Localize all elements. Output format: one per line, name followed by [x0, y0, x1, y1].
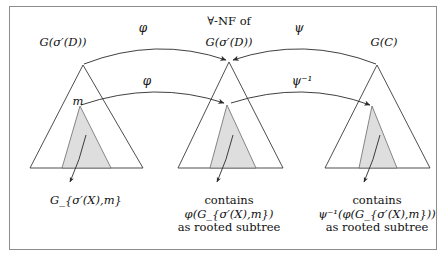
arrow-phi-lower [81, 92, 224, 105]
left-subtree [62, 106, 111, 168]
label-center-tree: G(σ′(D)) [206, 36, 253, 50]
label-right-tree-text: G(C) [371, 35, 398, 49]
caption-right-line3: as rooted subtree [318, 221, 435, 235]
label-subtree-root-m: m [73, 95, 84, 109]
caption-center: contains φ(G_{σ′(X),m}) as rooted subtre… [178, 194, 281, 235]
label-center-tree-text: G(σ′(D)) [206, 35, 253, 49]
right-subtree-shaded [359, 106, 397, 168]
caption-right: contains ψ⁻¹(φ(G_{σ′(X),m})) as rooted s… [318, 194, 435, 235]
label-left-tree: G(σ′(D)) [40, 36, 87, 50]
right-subtree [359, 106, 397, 168]
label-arrow-phi-upper-text: φ [139, 21, 147, 35]
label-arrow-psi-inverse-lower: ψ⁻¹ [292, 74, 313, 88]
caption-left: G_{σ′(X),m} [50, 194, 122, 208]
caption-left-text: G_{σ′(X),m} [50, 193, 122, 207]
label-center-caption: ∀-NF of [207, 15, 251, 29]
caption-center-line3: as rooted subtree [178, 221, 281, 235]
figure-root: G(σ′(D)) ∀-NF of G(σ′(D)) G(C) φ ψ φ ψ⁻¹… [0, 0, 448, 262]
label-arrow-phi-lower: φ [143, 74, 151, 88]
label-left-tree-text: G(σ′(D)) [40, 35, 87, 49]
label-arrow-psi-upper: ψ [294, 21, 303, 35]
caption-center-line2: φ(G_{σ′(X),m}) [178, 208, 281, 222]
label-center-caption-text: ∀-NF of [207, 14, 251, 28]
caption-right-line2: ψ⁻¹(φ(G_{σ′(X),m})) [318, 208, 435, 222]
label-subtree-root-m-text: m [73, 94, 84, 108]
label-right-tree: G(C) [371, 36, 398, 50]
label-arrow-phi-lower-text: φ [143, 74, 151, 88]
left-subtree-shaded [62, 106, 111, 168]
label-arrow-psi-inverse-lower-text: ψ⁻¹ [292, 74, 313, 88]
arrow-psi-inverse-lower [231, 92, 370, 105]
caption-center-line1: contains [178, 194, 281, 208]
label-arrow-psi-upper-text: ψ [294, 21, 303, 35]
caption-right-line1: contains [318, 194, 435, 208]
label-arrow-phi-upper: φ [139, 21, 147, 35]
arrow-phi-upper [84, 49, 226, 64]
arrow-psi-upper [233, 49, 376, 64]
